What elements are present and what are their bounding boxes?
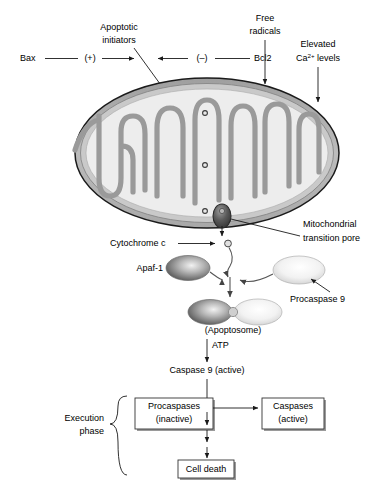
procaspase9-label: Procaspase 9 xyxy=(290,294,345,304)
apoptosome-cytochrome-c-subunit xyxy=(228,307,237,316)
execution-phase-brace xyxy=(110,396,127,475)
elevated-calcium-label-line2: Ca2+ levels xyxy=(296,51,341,63)
caspases-label-line1: Caspases xyxy=(273,401,314,411)
inhibitor-sign-label: (–) xyxy=(197,53,208,63)
cell-death-label: Cell death xyxy=(186,464,227,474)
diagram-canvas: Bax (+) (–) Bcl2 Apoptotic initiators Fr… xyxy=(0,0,387,494)
apoptosis-pathway-diagram: Bax (+) (–) Bcl2 Apoptotic initiators Fr… xyxy=(0,0,387,494)
activator-sign-label: (+) xyxy=(84,53,95,63)
apaf1-label: Apaf-1 xyxy=(136,263,163,273)
pore-label-line2: transition pore xyxy=(303,233,360,243)
apoptotic-initiators-label-line2: initiators xyxy=(102,35,136,45)
free-radicals-label-line2: radicals xyxy=(249,26,281,36)
mitochondrion xyxy=(75,78,339,228)
atp-label: ATP xyxy=(212,340,229,350)
apoptosome-complex xyxy=(188,299,282,325)
execution-phase-label-line1: Execution xyxy=(64,413,104,423)
caspase9-active-label: Caspase 9 (active) xyxy=(169,365,244,375)
execution-phase-label-line2: phase xyxy=(79,426,104,436)
pore-label-line1: Mitochondrial xyxy=(303,219,357,229)
apoptosome-apaf1-subunit xyxy=(188,300,232,325)
procaspase9-protein xyxy=(273,256,325,284)
cytochrome-c-molecule xyxy=(225,240,232,247)
bcl2-label: Bcl2 xyxy=(254,53,272,63)
free-radicals-label-line1: Free xyxy=(256,13,275,23)
apoptosome-procaspase-subunit xyxy=(234,299,282,325)
cytochrome-c-label: Cytochrome c xyxy=(110,238,166,248)
caspases-label-line2: (active) xyxy=(278,414,308,424)
bax-label: Bax xyxy=(20,53,36,63)
procaspases-label-line2: (inactive) xyxy=(156,414,193,424)
apaf1-protein xyxy=(166,256,210,281)
procaspases-label-line1: Procaspases xyxy=(148,401,201,411)
apoptosome-label: (Apoptosome) xyxy=(205,325,262,335)
mitochondrial-transition-pore xyxy=(213,204,231,228)
apoptotic-initiators-label-line1: Apoptotic xyxy=(100,22,138,32)
elevated-calcium-label-line1: Elevated xyxy=(300,39,335,49)
